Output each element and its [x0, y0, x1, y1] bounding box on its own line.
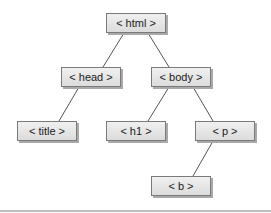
node-html: < html > [106, 13, 166, 33]
edge-body-to-h1 [148, 87, 169, 121]
node-body: < body > [151, 67, 211, 87]
node-b: < b > [151, 176, 211, 196]
edge-head-to-title [59, 87, 79, 121]
edge-html-to-body [148, 33, 169, 67]
edge-html-to-head [103, 33, 124, 67]
node-head: < head > [61, 67, 121, 87]
bottom-divider [0, 210, 271, 212]
node-p: < p > [195, 121, 255, 141]
dom-tree-diagram: < html > < head > < body > < title > < h… [0, 0, 271, 213]
node-h1: < h1 > [106, 121, 166, 141]
node-title: < title > [17, 121, 77, 141]
edge-p-to-b [193, 141, 213, 176]
edge-body-to-p [193, 87, 213, 121]
